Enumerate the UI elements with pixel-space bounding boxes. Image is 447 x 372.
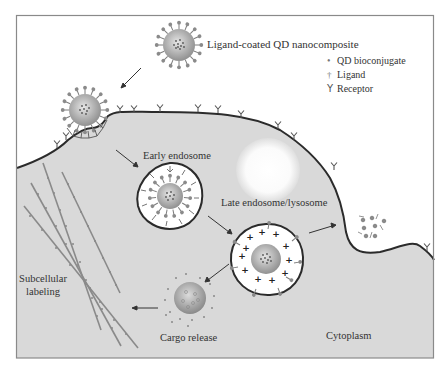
svg-text:+: + <box>254 274 262 284</box>
vesicle-highlight <box>236 138 300 202</box>
svg-text:+: + <box>281 268 289 278</box>
label-cytoplasm: Cytoplasm <box>326 330 372 342</box>
ligand-icon: † <box>327 69 337 81</box>
receptor-icon: Y <box>327 83 337 95</box>
svg-text:+: + <box>285 255 293 265</box>
svg-text:+: + <box>272 229 280 239</box>
legend-receptor: YReceptor <box>327 83 373 95</box>
svg-text:+: + <box>268 275 276 285</box>
svg-text:+: + <box>241 265 249 275</box>
qd-nanocomposite-free <box>155 21 203 69</box>
legend-ligand: †Ligand <box>327 69 365 81</box>
label-cargo-release: Cargo release <box>160 332 217 344</box>
svg-text:+: + <box>246 232 254 242</box>
svg-text:+: + <box>258 227 266 237</box>
label-early-endosome: Early endosome <box>143 150 211 162</box>
label-subcellular-labeling: Subcellular labeling <box>18 272 68 298</box>
legend-qd-bioconjugate: •QD bioconjugate <box>327 55 406 67</box>
exocytosed-particles <box>358 214 386 238</box>
label-nanocomposite: Ligand-coated QD nanocomposite <box>207 38 359 50</box>
svg-text:+: + <box>242 243 250 253</box>
svg-text:+: + <box>282 241 290 251</box>
dot-icon: • <box>327 55 337 67</box>
label-late-endosome: Late endosome/lysosome <box>221 197 327 209</box>
